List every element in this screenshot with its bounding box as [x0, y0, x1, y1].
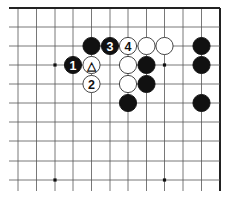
- black-stone: [193, 94, 210, 111]
- star-point: [53, 178, 56, 181]
- black-stone: [138, 56, 155, 73]
- black-stone-1: 1: [64, 56, 81, 73]
- move-number: 2: [88, 78, 95, 92]
- white-stone: [119, 75, 136, 92]
- star-point: [163, 178, 166, 181]
- white-stone-triangle: △: [83, 56, 100, 73]
- black-stone: [193, 37, 210, 54]
- star-point: [53, 63, 56, 66]
- black-stone: [138, 75, 155, 92]
- board-grid: [9, 8, 220, 191]
- black-stone: [83, 37, 100, 54]
- move-number: 3: [107, 40, 114, 54]
- star-point: [163, 63, 166, 66]
- white-stone-2: 2: [83, 75, 100, 92]
- move-number: 1: [70, 59, 77, 73]
- triangle-marker-icon: △: [86, 59, 97, 73]
- black-stone: [119, 94, 136, 111]
- white-stone: [156, 37, 173, 54]
- move-number: 4: [125, 40, 132, 54]
- stones-layer: 341△2: [64, 37, 210, 111]
- white-stone: [138, 37, 155, 54]
- black-stone: [193, 56, 210, 73]
- go-board: 341△2: [0, 0, 227, 202]
- black-stone-3: 3: [101, 37, 118, 54]
- white-stone: [119, 56, 136, 73]
- white-stone-4: 4: [119, 37, 136, 54]
